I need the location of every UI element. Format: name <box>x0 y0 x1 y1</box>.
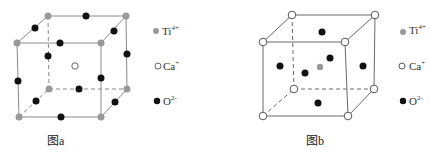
figure-a: Ti4+ Ca+ O2- 图a <box>14 13 180 149</box>
legend-o-label: O2- <box>163 94 177 107</box>
ti-atom <box>124 86 131 93</box>
ca-atom <box>259 112 267 120</box>
ti-atom <box>46 86 53 93</box>
o-atom <box>277 63 284 70</box>
o-atom <box>15 78 22 85</box>
legend-o-icon <box>400 98 406 104</box>
o-atom <box>58 114 65 121</box>
o-atom <box>124 51 131 58</box>
legend-o-label: O2- <box>409 94 423 107</box>
ca-atom <box>290 85 298 93</box>
legend-ti-label: Ti4+ <box>409 23 426 36</box>
ti-atom <box>98 114 105 121</box>
o-atom <box>32 25 39 32</box>
o-atom <box>111 28 118 35</box>
legend-ca-icon <box>155 63 161 69</box>
legend-ti-icon <box>400 29 406 35</box>
ca-atom <box>371 11 379 19</box>
ti-atom <box>45 13 52 20</box>
o-atom <box>33 98 40 105</box>
o-atom <box>360 63 367 70</box>
o-atom <box>76 86 83 93</box>
ca-atom <box>288 11 296 19</box>
ti-atom <box>14 40 21 47</box>
o-atom <box>302 70 309 77</box>
ti-atom <box>123 13 130 20</box>
o-atom <box>98 75 105 82</box>
figure-b: Ti4+ Ca+ O2- 图b <box>259 11 426 148</box>
o-atom <box>83 13 90 20</box>
ca-atom <box>259 38 267 46</box>
ca-atom <box>72 63 78 69</box>
o-atom <box>327 55 334 62</box>
ti-atom <box>16 114 23 121</box>
o-atom <box>57 40 64 47</box>
legend-o-icon <box>154 98 160 104</box>
legend-ca-label: Ca+ <box>409 59 425 72</box>
ca-atom <box>344 112 352 120</box>
caption-a: 图a <box>47 134 65 148</box>
legend-ca-label: Ca+ <box>163 59 179 72</box>
legend-ca-icon <box>399 63 405 69</box>
ti-atom <box>98 40 105 47</box>
legend-ti-icon <box>153 28 159 34</box>
legend-b: Ti4+ Ca+ O2- <box>399 23 426 107</box>
legend-ti-label: Ti4+ <box>162 24 179 37</box>
caption-b: 图b <box>306 134 324 148</box>
o-atom <box>45 53 52 60</box>
o-atom <box>112 99 119 106</box>
legend-a: Ti4+ Ca+ O2- <box>153 24 179 107</box>
ti-atom <box>317 64 323 70</box>
o-atom <box>315 100 322 107</box>
ca-atom <box>341 38 349 46</box>
o-atom <box>319 29 326 36</box>
ca-atom <box>370 85 378 93</box>
